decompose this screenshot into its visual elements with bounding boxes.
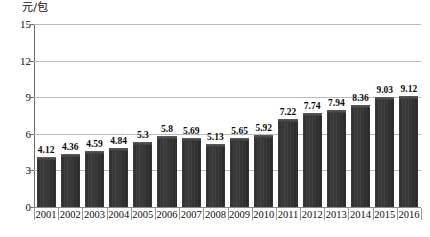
bar[interactable] bbox=[182, 138, 201, 207]
bar[interactable] bbox=[206, 144, 225, 207]
bar[interactable] bbox=[375, 97, 394, 207]
bar[interactable] bbox=[327, 110, 346, 207]
bar[interactable] bbox=[157, 136, 176, 207]
bar[interactable] bbox=[61, 154, 80, 207]
x-tick-label-2015: 2015 bbox=[373, 208, 397, 221]
x-tick-label-2004: 2004 bbox=[107, 208, 131, 221]
bar-slot: 4.59 bbox=[82, 24, 106, 207]
bar-slot: 8.36 bbox=[348, 24, 372, 207]
bar[interactable] bbox=[109, 148, 128, 207]
y-tick-label-9: 9 bbox=[5, 92, 31, 103]
y-axis-tick-labels: 03691215 bbox=[0, 24, 31, 207]
x-tick-label-2005: 2005 bbox=[131, 208, 155, 221]
x-axis-tick-labels: 2001200220032004200520062007200820092010… bbox=[34, 208, 421, 222]
bar-slot: 5.69 bbox=[179, 24, 203, 207]
y-tick-label-0: 0 bbox=[5, 202, 31, 213]
y-tick-label-3: 3 bbox=[5, 165, 31, 176]
x-tick-separator bbox=[276, 208, 277, 220]
x-tick-separator bbox=[58, 208, 59, 220]
bar-slot: 9.03 bbox=[373, 24, 397, 207]
x-tick-separator bbox=[131, 208, 132, 220]
bar-slot: 7.74 bbox=[300, 24, 324, 207]
x-tick-label-2006: 2006 bbox=[155, 208, 179, 221]
bar[interactable] bbox=[85, 151, 104, 207]
bar[interactable] bbox=[37, 157, 56, 207]
x-tick-label-2001: 2001 bbox=[34, 208, 58, 221]
x-tick-label-2011: 2011 bbox=[276, 208, 300, 221]
x-tick-label-2008: 2008 bbox=[203, 208, 227, 221]
x-tick-separator bbox=[348, 208, 349, 220]
x-tick-label-2007: 2007 bbox=[179, 208, 203, 221]
x-tick-label-2002: 2002 bbox=[58, 208, 82, 221]
y-tick-label-12: 12 bbox=[5, 56, 31, 67]
x-tick-separator bbox=[300, 208, 301, 220]
x-tick-label-2003: 2003 bbox=[82, 208, 106, 221]
x-tick-separator bbox=[397, 208, 398, 220]
bar-slot: 7.94 bbox=[324, 24, 348, 207]
bar[interactable] bbox=[254, 135, 273, 207]
bar-slot: 5.8 bbox=[155, 24, 179, 207]
x-tick-separator bbox=[421, 208, 422, 220]
bar-slot: 9.12 bbox=[397, 24, 421, 207]
y-tick-mark-0 bbox=[30, 207, 34, 208]
figure-caption bbox=[0, 228, 430, 237]
y-tick-mark-9 bbox=[30, 97, 34, 98]
x-tick-label-2014: 2014 bbox=[348, 208, 372, 221]
x-tick-label-2009: 2009 bbox=[228, 208, 252, 221]
bar-slot: 5.13 bbox=[203, 24, 227, 207]
bar-value-label: 9.12 bbox=[391, 84, 427, 94]
x-tick-label-2016: 2016 bbox=[397, 208, 421, 221]
x-tick-separator bbox=[155, 208, 156, 220]
y-tick-mark-6 bbox=[30, 134, 34, 135]
x-tick-separator bbox=[34, 208, 35, 220]
bar-slot: 4.84 bbox=[107, 24, 131, 207]
x-tick-separator bbox=[373, 208, 374, 220]
bar[interactable] bbox=[351, 105, 370, 207]
bar[interactable] bbox=[278, 119, 297, 207]
x-tick-label-2013: 2013 bbox=[324, 208, 348, 221]
x-tick-separator bbox=[203, 208, 204, 220]
x-tick-separator bbox=[228, 208, 229, 220]
x-tick-separator bbox=[324, 208, 325, 220]
y-tick-mark-12 bbox=[30, 61, 34, 62]
bar-slot: 5.3 bbox=[131, 24, 155, 207]
bar[interactable] bbox=[230, 138, 249, 207]
bar[interactable] bbox=[399, 96, 418, 207]
y-tick-mark-3 bbox=[30, 170, 34, 171]
bar[interactable] bbox=[133, 142, 152, 207]
bar-slot: 7.22 bbox=[276, 24, 300, 207]
bar-slot: 5.65 bbox=[228, 24, 252, 207]
plot-area: 4.124.364.594.845.35.85.695.135.655.927.… bbox=[34, 24, 421, 207]
x-tick-separator bbox=[82, 208, 83, 220]
y-tick-label-6: 6 bbox=[5, 129, 31, 140]
x-tick-separator bbox=[107, 208, 108, 220]
bar-slot: 4.36 bbox=[58, 24, 82, 207]
bar[interactable] bbox=[303, 113, 322, 207]
x-tick-label-2012: 2012 bbox=[300, 208, 324, 221]
y-tick-label-15: 15 bbox=[5, 19, 31, 30]
y-tick-mark-15 bbox=[30, 24, 34, 25]
bar-chart-figure: 元/包 03691215 4.124.364.594.845.35.85.695… bbox=[0, 0, 430, 237]
x-tick-separator bbox=[252, 208, 253, 220]
x-tick-label-2010: 2010 bbox=[252, 208, 276, 221]
x-tick-separator bbox=[179, 208, 180, 220]
y-axis-unit-label: 元/包 bbox=[22, 1, 49, 14]
bar-slot: 4.12 bbox=[34, 24, 58, 207]
